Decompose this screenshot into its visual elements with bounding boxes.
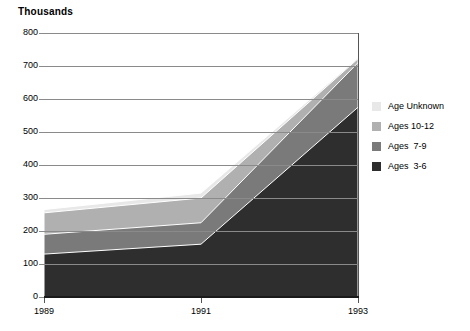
gridline <box>44 231 358 232</box>
gridline <box>44 33 358 34</box>
legend-item[interactable]: Ages 10-12 <box>372 116 468 136</box>
x-tick-mark <box>358 298 359 303</box>
axis-unit-title: Thousands <box>18 6 73 17</box>
x-tick-mark <box>44 298 45 303</box>
x-tick-mark <box>201 298 202 303</box>
x-tick-label: 1989 <box>34 306 54 316</box>
x-tick-label: 1991 <box>191 306 211 316</box>
y-axis-tick-marks <box>0 33 44 297</box>
gridline <box>44 99 358 100</box>
legend-swatch-icon <box>372 122 381 131</box>
gridline <box>44 198 358 199</box>
legend-swatch-icon <box>372 162 381 171</box>
legend-item[interactable]: Ages 7-9 <box>372 136 468 156</box>
legend-item[interactable]: Ages 3-6 <box>372 156 468 176</box>
gridline <box>44 66 358 67</box>
gridline <box>44 165 358 166</box>
legend-item-label: Age Unknown <box>388 101 444 111</box>
stacked-area-chart-figure: Thousands 8007006005004003002001000 1989… <box>0 0 470 331</box>
gridline <box>44 264 358 265</box>
gridline <box>44 132 358 133</box>
plot-area <box>44 33 358 297</box>
y-axis-line <box>358 33 359 297</box>
legend-item-label: Ages 3-6 <box>388 161 427 171</box>
legend-swatch-icon <box>372 102 381 111</box>
x-tick-label: 1993 <box>348 306 368 316</box>
legend-item-label: Ages 10-12 <box>388 121 434 131</box>
legend-item-label: Ages 7-9 <box>388 141 427 151</box>
legend-item[interactable]: Age Unknown <box>372 96 468 116</box>
legend-swatch-icon <box>372 142 381 151</box>
chart-legend: Age UnknownAges 10-12Ages 7-9Ages 3-6 <box>372 96 468 176</box>
